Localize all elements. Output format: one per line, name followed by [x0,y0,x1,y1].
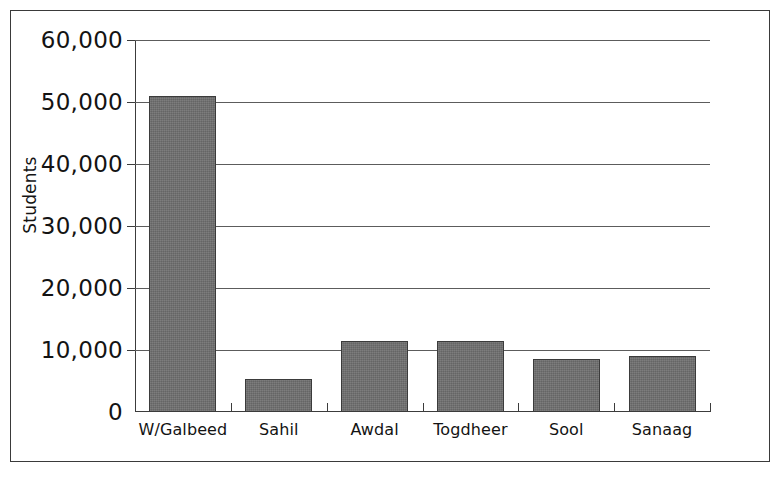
bar-sool [533,359,600,412]
x-tick-mark [614,403,615,412]
x-category-label: W/Galbeed [139,420,228,439]
x-category-label: Sahil [259,420,299,439]
x-tick-mark [710,403,711,412]
y-tick-label: 30,000 [41,213,123,239]
y-tick-mark [127,164,135,165]
y-tick-label: 50,000 [41,89,123,115]
y-tick-label: 10,000 [41,337,123,363]
bar-w-galbeed [149,96,216,412]
y-tick-mark [127,350,135,351]
x-category-label: Sanaag [632,420,692,439]
x-tick-mark [423,403,424,412]
plot-area: 010,00020,00030,00040,00050,00060,000 [135,40,710,412]
x-category-label: Togdheer [433,420,507,439]
y-tick-label: 60,000 [41,27,123,53]
y-tick-label: 40,000 [41,151,123,177]
gridline [135,350,710,351]
x-tick-mark [518,403,519,412]
bar-awdal [341,341,408,412]
y-tick-label: 20,000 [41,275,123,301]
x-tick-mark [327,403,328,412]
y-axis-title: Students [20,115,40,275]
gridline [135,102,710,103]
bar-chart: Students 010,00020,00030,00040,00050,000… [0,0,784,481]
y-tick-label: 0 [108,399,123,425]
bar-sahil [245,379,312,412]
bar-togdheer [437,341,504,412]
gridline [135,164,710,165]
y-tick-mark [127,288,135,289]
x-tick-mark [231,403,232,412]
gridline [135,40,710,41]
y-tick-mark [127,102,135,103]
x-category-label: Sool [549,420,584,439]
gridline [135,226,710,227]
bar-sanaag [629,356,696,412]
gridline [135,288,710,289]
y-tick-mark [127,40,135,41]
y-tick-mark [127,226,135,227]
x-category-label: Awdal [350,420,398,439]
